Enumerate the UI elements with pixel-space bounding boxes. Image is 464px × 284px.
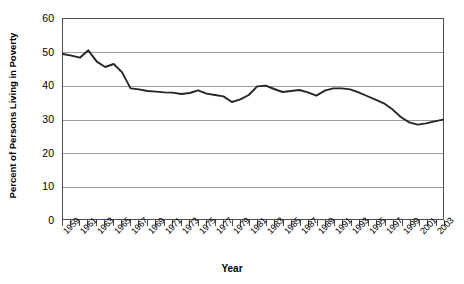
y-axis-title: Percent of Persons Living in Poverty [0,0,26,230]
y-axis-title-text: Percent of Persons Living in Poverty [8,32,19,198]
data-series-line [63,19,443,219]
poverty-line-chart: Percent of Persons Living in Poverty 010… [0,0,464,284]
poverty-rate-line [63,50,443,124]
x-axis-title: Year [0,263,464,274]
x-tick-mark [62,220,63,226]
plot-area [62,18,444,220]
